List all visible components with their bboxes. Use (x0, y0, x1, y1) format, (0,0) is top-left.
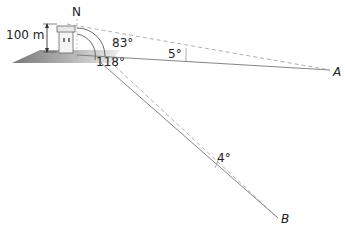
height-marker (43, 23, 57, 53)
bearing-angle-A-label: 83° (112, 36, 133, 50)
sight-line-B (115, 66, 278, 218)
depression-angle-B-label: 4° (217, 151, 231, 165)
height-label: 100 m (6, 28, 44, 42)
depression-angle-A-label: 5° (168, 47, 182, 61)
north-label: N (72, 5, 81, 19)
point-A-label: A (332, 65, 341, 79)
ground-line-B (100, 62, 278, 218)
bearing-diagram: 100 m N 83° 118° 5° A 4° B (0, 0, 345, 234)
point-B-label: B (281, 212, 289, 226)
tower-icon (57, 26, 75, 53)
